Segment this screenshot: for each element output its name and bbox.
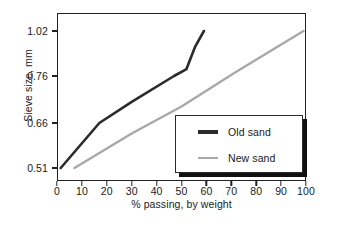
x-tick-label: 10 xyxy=(76,186,88,197)
legend-swatch-new-sand xyxy=(198,157,218,160)
legend-entry-new-sand: New sand xyxy=(176,145,302,171)
x-tick-label: 30 xyxy=(126,186,138,197)
x-tick-mark xyxy=(206,181,207,186)
x-tick-label: 20 xyxy=(101,186,113,197)
x-axis-title: % passing, by weight xyxy=(57,199,306,210)
x-tick-label: 90 xyxy=(275,186,287,197)
x-tick-label: 70 xyxy=(225,186,237,197)
x-tick-label: 0 xyxy=(54,186,60,197)
x-tick-mark xyxy=(81,181,82,186)
legend-box: Old sand New sand xyxy=(175,115,303,173)
legend-swatch-old-sand xyxy=(198,130,218,133)
legend-label-new-sand: New sand xyxy=(228,153,276,164)
x-tick-mark xyxy=(305,181,306,186)
x-tick-label: 60 xyxy=(200,186,212,197)
x-tick-label: 100 xyxy=(297,186,315,197)
x-tick-mark xyxy=(181,181,182,186)
x-tick-mark xyxy=(280,181,281,186)
x-tick-mark xyxy=(156,181,157,186)
chart-figure: 0.510.660.761.02 Sieve size, mm 01020304… xyxy=(0,0,337,229)
x-tick-mark xyxy=(255,181,256,186)
x-tick-label: 80 xyxy=(250,186,262,197)
x-tick-mark xyxy=(231,181,232,186)
x-tick-label: 50 xyxy=(176,186,188,197)
x-tick-mark xyxy=(131,181,132,186)
legend-label-old-sand: Old sand xyxy=(228,127,271,138)
caption-sliver xyxy=(22,221,322,226)
x-tick-mark xyxy=(106,181,107,186)
x-tick-mark xyxy=(56,181,57,186)
x-tick-label: 40 xyxy=(151,186,163,197)
legend-entry-old-sand: Old sand xyxy=(176,119,302,145)
